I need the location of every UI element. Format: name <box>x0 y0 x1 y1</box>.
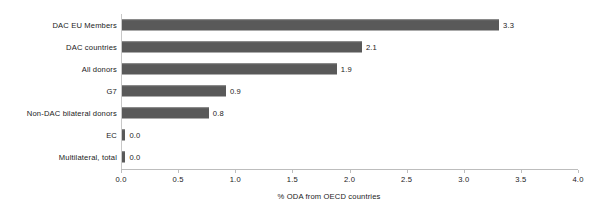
x-tick-label: 1.0 <box>230 175 241 184</box>
bar-value-label: 2.1 <box>366 43 377 52</box>
x-tick-label: 0.5 <box>173 175 184 184</box>
bar-value-label: 1.9 <box>341 65 352 74</box>
bar-track <box>122 108 209 119</box>
bar[interactable] <box>122 108 209 119</box>
x-tick-label: 2.0 <box>344 175 355 184</box>
x-tick-mark <box>407 170 408 173</box>
category-label: G7 <box>107 87 117 96</box>
bar-track <box>122 42 362 53</box>
bar[interactable] <box>122 20 499 31</box>
x-tick-mark <box>521 170 522 173</box>
bar-row: Non-DAC bilateral donors0.8 <box>0 102 594 124</box>
bar[interactable] <box>122 130 125 141</box>
x-tick-mark <box>464 170 465 173</box>
bar[interactable] <box>122 86 226 97</box>
bar-row: EC0.0 <box>0 124 594 146</box>
category-label: Non-DAC bilateral donors <box>27 109 117 118</box>
x-tick-mark <box>578 170 579 173</box>
bar-value-label: 3.3 <box>503 21 514 30</box>
category-label: Multilateral, total <box>59 153 117 162</box>
x-tick-mark <box>350 170 351 173</box>
bar[interactable] <box>122 64 337 75</box>
bar-track <box>122 152 125 163</box>
x-tick-label: 4.0 <box>572 175 583 184</box>
category-label: All donors <box>82 65 117 74</box>
x-tick-label: 3.5 <box>515 175 526 184</box>
bar-track <box>122 130 125 141</box>
x-tick-label: 3.0 <box>458 175 469 184</box>
x-tick-label: 2.5 <box>401 175 412 184</box>
x-tick-mark <box>178 170 179 173</box>
category-label: EC <box>106 131 117 140</box>
bar-row: DAC countries2.1 <box>0 36 594 58</box>
bar-chart: DAC EU Members3.3DAC countries2.1All don… <box>0 0 594 212</box>
bar-value-label: 0.0 <box>129 153 140 162</box>
bar-row: All donors1.9 <box>0 58 594 80</box>
x-axis-title-text: % ODA from OECD countries <box>278 192 381 201</box>
x-tick-label: 0.0 <box>115 175 126 184</box>
bar-row: G70.9 <box>0 80 594 102</box>
category-label: DAC EU Members <box>52 21 117 30</box>
bar-row: DAC EU Members3.3 <box>0 14 594 36</box>
bar[interactable] <box>122 42 362 53</box>
x-tick-mark <box>121 170 122 173</box>
bar-track <box>122 86 226 97</box>
bar[interactable] <box>122 152 125 163</box>
x-tick-mark <box>235 170 236 173</box>
x-tick-label: 1.5 <box>287 175 298 184</box>
x-tick-mark <box>292 170 293 173</box>
bar-track <box>122 64 337 75</box>
x-axis-title: % ODA from OECD countries <box>0 192 594 201</box>
bar-value-label: 0.8 <box>213 109 224 118</box>
category-label: DAC countries <box>66 43 117 52</box>
bar-value-label: 0.0 <box>129 131 140 140</box>
bar-value-label: 0.9 <box>230 87 241 96</box>
bar-row: Multilateral, total0.0 <box>0 146 594 168</box>
bar-track <box>122 20 499 31</box>
